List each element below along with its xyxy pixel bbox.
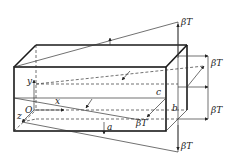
bottom-stress-distribution xyxy=(22,122,178,152)
axis-z-label: z xyxy=(16,111,22,121)
hidden-edges xyxy=(14,45,187,131)
stress-right-lower-label: βT xyxy=(210,105,223,115)
stress-bottom-label: βT xyxy=(180,141,193,151)
right-stress-distribution xyxy=(178,56,208,119)
stress-front-label: βT xyxy=(135,118,148,128)
dim-c-label: c xyxy=(156,87,161,97)
axis-x-label: x xyxy=(55,96,60,106)
stress-right-upper-label: βT xyxy=(210,58,223,68)
origin-label: O xyxy=(25,105,33,115)
box-right-face xyxy=(166,45,187,131)
stress-top-label: βT xyxy=(180,17,193,27)
dim-b-label: b xyxy=(172,103,178,113)
dim-a-label: a xyxy=(107,122,112,132)
box-top-face xyxy=(14,45,187,67)
interior-stress-lines xyxy=(14,66,204,122)
axis-y-label: y xyxy=(26,76,33,86)
box-stress-diagram: y x z O a b c βT βT βT βT βT xyxy=(0,0,241,162)
